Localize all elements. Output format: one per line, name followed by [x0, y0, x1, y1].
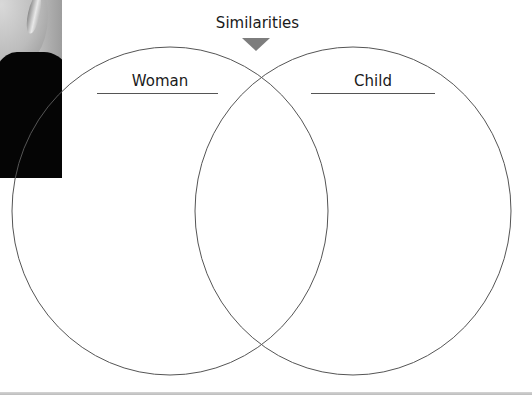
child-label: Child	[333, 72, 413, 90]
woman-label: Woman	[120, 72, 200, 90]
venn-diagram	[0, 0, 532, 395]
child-underline	[311, 93, 435, 94]
child-circle	[195, 47, 511, 375]
similarities-label: Similarities	[210, 14, 305, 32]
down-arrow-icon	[242, 38, 270, 51]
woman-circle	[12, 47, 328, 375]
woman-underline	[97, 93, 218, 94]
